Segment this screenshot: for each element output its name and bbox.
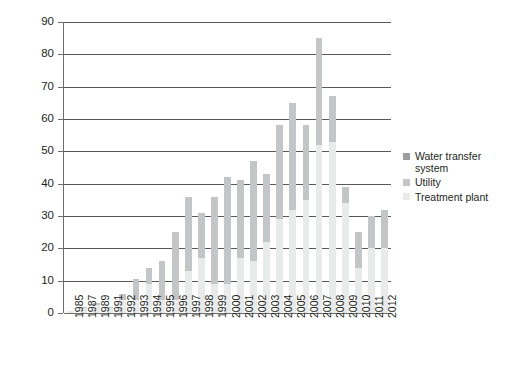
bar-segment-utility-2012: [381, 210, 388, 249]
bar-2006: [303, 125, 310, 313]
bar-segment-utility-2000: [224, 177, 231, 284]
bar-segment-utility-2004: [276, 125, 283, 219]
x-tick-label-1996: 1996: [178, 295, 189, 318]
x-tick-label-2012: 2012: [387, 295, 398, 318]
chart-legend: Water transfer systemUtilityTreatment pl…: [403, 150, 511, 205]
bar-2008: [329, 96, 336, 313]
bar-segment-utility-2009: [342, 187, 349, 203]
bar-segment-treatment-2007: [316, 145, 323, 313]
bar-2000: [224, 177, 231, 313]
bar-2005: [289, 103, 296, 313]
x-tick-label-2008: 2008: [335, 295, 346, 318]
y-tick-label-0: 0: [48, 307, 54, 319]
y-tick-label-30: 30: [41, 210, 54, 222]
x-tick-label-2009: 2009: [348, 295, 359, 318]
bar-2004: [276, 125, 283, 313]
bar-segment-utility-1997: [185, 197, 192, 271]
y-tick-label-80: 80: [41, 48, 54, 60]
legend-label-transfer: Water transfer system: [415, 150, 511, 174]
y-tick-label-50: 50: [41, 145, 54, 157]
x-tick-label-1992: 1992: [126, 295, 137, 318]
y-tick-label-70: 70: [41, 81, 54, 93]
x-tick-label-2000: 2000: [231, 295, 242, 318]
x-tick-label-1997: 1997: [191, 295, 202, 318]
x-tick-label-2002: 2002: [257, 295, 268, 318]
y-tick-label-60: 60: [41, 113, 54, 125]
bar-segment-utility-1999: [211, 197, 218, 284]
bar-segment-utility-1996: [172, 232, 179, 300]
legend-label-treatment: Treatment plant: [415, 191, 511, 203]
x-tick-label-2001: 2001: [244, 295, 255, 318]
bar-2002: [250, 161, 257, 313]
bar-segment-utility-2001: [237, 180, 244, 258]
x-tick-label-1989: 1989: [100, 295, 111, 318]
x-tick-label-2007: 2007: [322, 295, 333, 318]
x-tick-label-2006: 2006: [309, 295, 320, 318]
y-tick-label-20: 20: [41, 242, 54, 254]
legend-swatch-transfer-icon: [403, 153, 410, 160]
x-tick-label-2005: 2005: [296, 295, 307, 318]
bar-series-group: [64, 22, 391, 313]
legend-swatch-utility-icon: [403, 179, 410, 186]
legend-item-treatment[interactable]: Treatment plant: [403, 191, 511, 203]
x-tick-label-2003: 2003: [270, 295, 281, 318]
x-tick-label-2011: 2011: [374, 295, 385, 318]
bar-2003: [263, 174, 270, 313]
bar-2007: [316, 38, 323, 313]
y-tick-label-40: 40: [41, 178, 54, 190]
bar-segment-utility-2010: [355, 232, 362, 268]
legend-item-utility[interactable]: Utility: [403, 176, 511, 188]
plot-area: [63, 22, 390, 313]
x-tick-label-1985: 1985: [74, 295, 85, 318]
x-tick-label-1987: 1987: [87, 295, 98, 318]
bar-segment-utility-1998: [198, 213, 205, 258]
bar-2001: [237, 180, 244, 313]
x-tick-label-2010: 2010: [361, 295, 372, 318]
x-tick-label-1995: 1995: [165, 295, 176, 318]
x-tick-label-1998: 1998: [204, 295, 215, 318]
y-tick-label-10: 10: [41, 275, 54, 287]
y-tick-mark-0: [58, 313, 63, 314]
stacked-bar-chart: 0102030405060708090 19851987198919911992…: [0, 0, 514, 366]
y-tick-label-90: 90: [41, 16, 54, 28]
legend-label-utility: Utility: [415, 176, 511, 188]
bar-segment-utility-1994: [146, 268, 153, 284]
x-tick-label-1994: 1994: [152, 295, 163, 318]
bar-segment-utility-2007: [316, 38, 323, 145]
bar-segment-utility-2002: [250, 161, 257, 261]
legend-swatch-treatment-icon: [403, 193, 410, 200]
legend-item-transfer[interactable]: Water transfer system: [403, 150, 511, 174]
bar-segment-utility-2006: [303, 125, 310, 199]
x-tick-label-1993: 1993: [139, 295, 150, 318]
bar-segment-utility-2008: [329, 96, 336, 141]
bar-segment-utility-2003: [263, 174, 270, 242]
x-tick-label-1991: 1991: [113, 295, 124, 318]
bar-segment-utility-2011: [368, 216, 375, 248]
bar-segment-treatment-2008: [329, 142, 336, 313]
bar-segment-utility-2005: [289, 103, 296, 210]
x-tick-label-2004: 2004: [283, 295, 294, 318]
x-tick-label-1999: 1999: [217, 295, 228, 318]
